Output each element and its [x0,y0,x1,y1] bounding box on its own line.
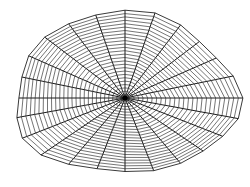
wireframe-figure [0,0,250,187]
mesh-spoke [22,77,125,98]
mesh-center [123,96,128,101]
polar-mesh-plot [0,0,250,187]
mesh-spoke [125,98,223,136]
